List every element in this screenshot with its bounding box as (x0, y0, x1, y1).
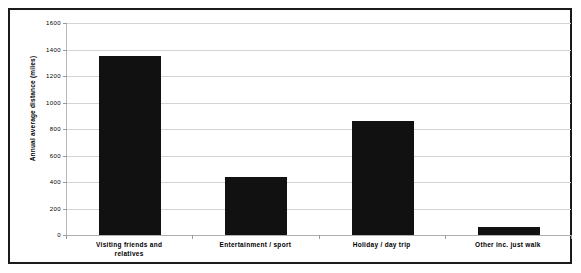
y-tick-label-200: 200 (50, 206, 61, 212)
y-tick-label-400: 400 (50, 179, 61, 185)
y-tick-label-800: 800 (50, 126, 61, 132)
chart-frame: Annual average distance (miles) 02004006… (8, 8, 572, 264)
y-tick-mark-1000 (63, 103, 67, 104)
bar-2 (352, 121, 414, 235)
y-tick-mark-1600 (63, 23, 67, 24)
x-tick-mark-3 (445, 235, 446, 239)
x-tick-mark-0 (66, 235, 67, 239)
y-tick-label-600: 600 (50, 153, 61, 159)
x-axis-category-labels: Visiting friends andrelativesEntertainme… (66, 240, 571, 264)
y-tick-label-1200: 1200 (46, 73, 61, 79)
y-tick-label-1600: 1600 (46, 20, 61, 26)
bar-1 (225, 177, 287, 235)
category-label-3: Other inc. just walk (443, 240, 573, 249)
y-tick-mark-1400 (63, 50, 67, 51)
plot-area: 02004006008001000120014001600 (66, 23, 571, 235)
y-tick-label-1400: 1400 (46, 47, 61, 53)
x-tick-mark-4 (571, 235, 572, 239)
y-tick-mark-600 (63, 156, 67, 157)
y-tick-mark-800 (63, 129, 67, 130)
category-label-2: Holiday / day trip (317, 240, 447, 249)
bar-3 (478, 227, 540, 235)
x-tick-mark-2 (319, 235, 320, 239)
category-label-0: Visiting friends andrelatives (64, 240, 194, 258)
bar-0 (99, 56, 161, 235)
y-tick-label-1000: 1000 (46, 100, 61, 106)
category-label-1: Entertainment / sport (190, 240, 320, 249)
y-tick-mark-1200 (63, 76, 67, 77)
y-tick-label-0: 0 (57, 232, 61, 238)
x-tick-mark-1 (192, 235, 193, 239)
y-axis-title: Annual average distance (miles) (29, 39, 36, 179)
gridline-1400 (67, 50, 571, 51)
y-tick-mark-200 (63, 209, 67, 210)
gridline-1600 (67, 23, 571, 24)
y-tick-mark-400 (63, 182, 67, 183)
